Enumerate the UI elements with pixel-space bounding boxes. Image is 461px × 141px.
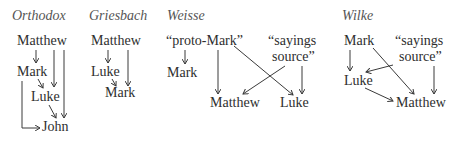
orthodox-arrow-mark-john <box>22 81 40 128</box>
orthodox-arrow-mark-luke <box>38 79 43 88</box>
orthodox-arrow-luke-john <box>49 105 56 118</box>
arrows-layer <box>0 0 461 141</box>
wilke-arrow-mark-matthew <box>373 48 414 94</box>
wilke-arrow-luke-matthew <box>365 88 393 101</box>
weisse-arrow-sayings-matthew <box>243 66 285 94</box>
weisse-arrow-protomark-luke <box>234 46 293 95</box>
griesbach-arrow-luke-mark <box>112 79 116 86</box>
wilke-arrow-sayings-luke <box>366 65 393 72</box>
